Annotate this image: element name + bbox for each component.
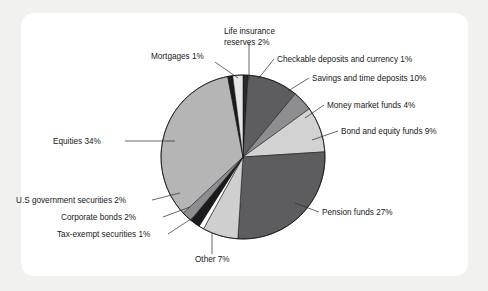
pie-label-line: Money market funds 4%	[327, 101, 415, 110]
pie-label-equities: Equities 34%	[53, 137, 101, 146]
pie-label-line: Tax-exempt securities 1%	[57, 230, 150, 239]
pie-label-line: Bond and equity funds 9%	[341, 127, 437, 136]
pie-label-line: Other 7%	[195, 255, 230, 264]
leader-line-savings-and-time-deposits	[288, 78, 309, 91]
pie-label-checkable-deposits-and-currency: Checkable deposits and currency 1%	[277, 55, 412, 64]
pie-label-line: Mortgages 1%	[151, 52, 204, 61]
pie-slice-pension-funds[interactable]: Pension funds 27%	[238, 152, 325, 239]
pie-label-us-government-securities: U.S government securities 2%	[16, 196, 126, 205]
pie-label-line: Life insurance	[224, 27, 275, 36]
leader-line-mortgages	[215, 62, 238, 78]
pie-label-line: Checkable deposits and currency 1%	[277, 55, 412, 64]
pie-label-life-insurance-reserves: Life insurancereserves 2%	[224, 27, 275, 47]
pie-label-corporate-bonds: Corporate bonds 2%	[61, 213, 136, 222]
pie-label-bond-and-equity-funds: Bond and equity funds 9%	[341, 127, 437, 136]
pie-label-pension-funds: Pension funds 27%	[322, 208, 393, 217]
pie-label-line: reserves 2%	[224, 38, 270, 47]
pie-label-line: Savings and time deposits 10%	[312, 74, 426, 83]
pie-label-line: Equities 34%	[53, 137, 101, 146]
pie-chart-figure: Checkable deposits and currency 1%Saving…	[0, 0, 488, 291]
leader-line-checkable-deposits-and-currency	[258, 59, 274, 79]
pie-label-tax-exempt-securities: Tax-exempt securities 1%	[57, 230, 150, 239]
pie-label-line: Pension funds 27%	[322, 208, 393, 217]
pie-chart-svg: Checkable deposits and currency 1%Saving…	[0, 0, 488, 291]
pie-label-other: Other 7%	[195, 255, 230, 264]
pie-label-line: U.S government securities 2%	[16, 196, 126, 205]
pie-slices-group: Checkable deposits and currency 1%Saving…	[161, 75, 325, 239]
pie-label-line: Corporate bonds 2%	[61, 213, 136, 222]
pie-label-mortgages: Mortgages 1%	[151, 52, 204, 61]
leader-line-tax-exempt-securities	[168, 215, 197, 234]
pie-label-savings-and-time-deposits: Savings and time deposits 10%	[312, 74, 426, 83]
pie-label-money-market-funds: Money market funds 4%	[327, 101, 415, 110]
